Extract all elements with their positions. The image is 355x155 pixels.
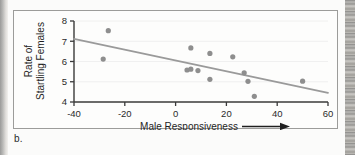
data-point <box>101 56 106 61</box>
data-point <box>252 94 257 99</box>
y-axis-tick-label: 5 <box>62 76 67 87</box>
y-axis-title: Rate ofStartling Females <box>23 22 46 100</box>
x-axis-title: Male Responsiveness <box>140 121 238 130</box>
x-axis-arrow-head <box>280 123 290 130</box>
data-point <box>242 70 247 75</box>
scan-artifact-right <box>345 0 355 155</box>
data-point <box>195 68 200 73</box>
data-point <box>300 79 305 84</box>
y-axis-tick-label: 7 <box>62 36 67 47</box>
data-point <box>207 51 212 56</box>
x-axis-tick-label: 0 <box>173 108 178 119</box>
data-point <box>245 79 250 84</box>
scatter-chart: 45678-40-200204060Male ResponsivenessRat… <box>14 11 339 130</box>
x-axis-tick-label: 40 <box>272 108 283 119</box>
data-point <box>230 54 235 59</box>
figure-caption: b. <box>14 133 23 144</box>
data-point <box>106 28 111 33</box>
x-axis-tick-label: -40 <box>67 108 81 119</box>
y-axis-tick-label: 4 <box>62 96 67 107</box>
x-axis-tick-label: 60 <box>323 108 334 119</box>
trend-line <box>74 39 328 93</box>
x-axis-tick-label: -20 <box>118 108 132 119</box>
scan-artifact-left <box>0 0 8 155</box>
y-axis-tick-label: 6 <box>62 56 67 67</box>
y-axis-title-line1: Rate of <box>23 45 34 77</box>
figure-panel: 45678-40-200204060Male ResponsivenessRat… <box>13 10 338 129</box>
y-axis-tick-label: 8 <box>62 15 67 26</box>
x-axis-tick-label: 20 <box>221 108 232 119</box>
data-point <box>188 67 193 72</box>
data-point <box>207 77 212 82</box>
data-point <box>188 45 193 50</box>
y-axis-title-line2: Startling Females <box>35 22 46 100</box>
